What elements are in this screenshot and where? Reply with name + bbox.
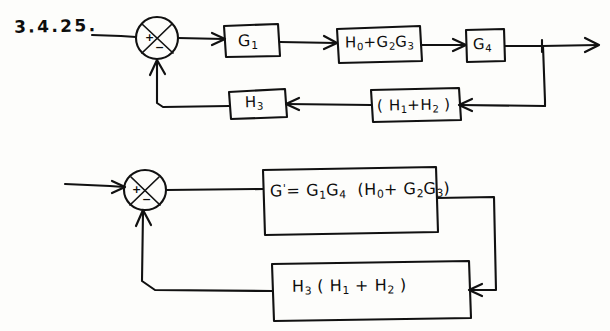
- link-sum1-to-g1: [178, 38, 224, 39]
- block-label-g1: G1: [238, 31, 258, 52]
- block-label-h1-plus-h2: ( H1+H2 ): [377, 95, 451, 115]
- sum1-minus-sign: −: [155, 41, 164, 54]
- block-label-h0-plus-g2g3: H0+G2G3: [345, 33, 414, 53]
- block-label-h3-h1-h2: H3 ( H1 + H2 ): [292, 275, 407, 297]
- feedback-line-2: [437, 197, 496, 290]
- feedback-return-line-1: [157, 62, 229, 107]
- input-line-2: [65, 184, 124, 187]
- sum2-minus-sign: −: [142, 193, 151, 206]
- link-sum2-to-gprime: [166, 189, 263, 190]
- feedback-drop-line-1: [543, 46, 545, 106]
- sum2-plus-sign: +: [132, 183, 141, 196]
- block-label-g4: G4: [473, 35, 492, 54]
- handwritten-block-diagram-page: 3.4.25. G1 H0+G2G3 G4 H3 ( H1+H2 ) G'= G…: [0, 0, 610, 331]
- link-h1h2-to-h3: [287, 104, 371, 105]
- block-label-h3: H3: [245, 93, 264, 112]
- output-line-1: [505, 45, 598, 46]
- feedback-return-line-2: [142, 212, 272, 291]
- block-label-g-prime: G'= G1G4 (H0+ G2G3): [270, 179, 451, 203]
- link-takeoff-to-h1h2: [460, 105, 545, 106]
- sum1-plus-sign: +: [145, 31, 154, 44]
- link-g1-to-h0g2g3: [280, 42, 336, 43]
- input-line-1: [92, 35, 136, 37]
- page-title: 3.4.25.: [14, 15, 98, 37]
